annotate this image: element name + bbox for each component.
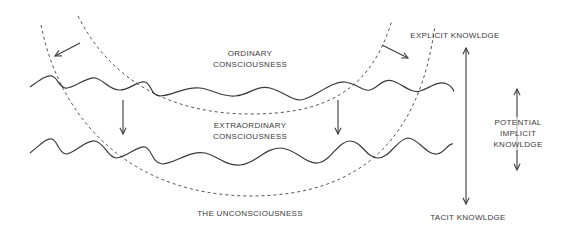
potential-label-line1: POTENTIAL [492,117,544,128]
potential-label-line3: KNOWLDGE [492,139,544,150]
potential-implicit-knowledge-label: POTENTIAL IMPLICIT KNOWLDGE [492,117,544,150]
tacit-knowledge-label: TACIT KNOWLDGE [418,212,518,223]
extraordinary-label-line1: EXTRAORDINARY [200,120,300,131]
lower-wave-line [30,138,453,165]
right-outward-arrow [382,45,408,58]
extraordinary-label-line2: CONSCIOUSNESS [200,131,300,142]
ordinary-label-line1: ORDINARY [200,48,300,59]
ordinary-label-line2: CONSCIOUSNESS [200,59,300,70]
upper-wave-line [30,76,454,100]
unconsciousness-label: THE UNCONSCIOUSNESS [185,208,315,219]
ordinary-consciousness-label: ORDINARY CONSCIOUSNESS [200,48,300,70]
left-outward-arrow [55,43,80,56]
explicit-knowledge-label: EXPLICIT KNOWLDGE [405,30,505,41]
extraordinary-consciousness-label: EXTRAORDINARY CONSCIOUSNESS [200,120,300,142]
potential-label-line2: IMPLICIT [492,128,544,139]
